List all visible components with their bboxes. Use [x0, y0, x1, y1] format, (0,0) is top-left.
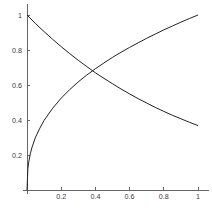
plot-background	[0, 0, 212, 210]
x-tick-label: 1	[196, 192, 200, 201]
x-tick-label: 0.8	[159, 192, 169, 201]
plot-figure: 0.20.40.60.81 0.20.40.60.81	[0, 0, 212, 210]
y-tick-label: 1	[18, 11, 22, 20]
x-tick-label: 0.6	[125, 192, 135, 201]
y-tick-label: 0.8	[12, 46, 22, 55]
x-tick-label: 0.2	[56, 192, 66, 201]
y-tick-label: 0.6	[12, 81, 22, 90]
y-tick-label: 0.4	[12, 116, 22, 125]
plot-canvas: 0.20.40.60.81 0.20.40.60.81	[0, 0, 212, 210]
x-tick-label: 0.4	[90, 192, 100, 201]
y-tick-label: 0.2	[12, 151, 22, 160]
